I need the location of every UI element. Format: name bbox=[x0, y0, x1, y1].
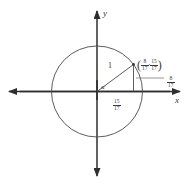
horizontal-leg-label: 1517 bbox=[113, 96, 121, 112]
diagram-canvas bbox=[0, 0, 189, 187]
point-y-denominator: 17 bbox=[150, 66, 158, 72]
unit-circle-figure: y x 1 α (817,1517) 817 1517 bbox=[0, 0, 189, 187]
terminal-point-marker bbox=[132, 63, 135, 66]
y-axis-label: y bbox=[103, 9, 107, 18]
point-x-fraction: 817 bbox=[141, 59, 149, 72]
angle-alpha-label: α bbox=[101, 84, 105, 91]
point-x-denominator: 17 bbox=[141, 66, 149, 72]
close-paren: ) bbox=[158, 59, 162, 71]
vertical-leg-denominator: 17 bbox=[167, 83, 175, 89]
vertical-leg-label: 817 bbox=[167, 73, 175, 89]
vertical-leg-fraction: 817 bbox=[167, 76, 175, 89]
x-axis-label: x bbox=[175, 96, 179, 105]
hypotenuse-label: 1 bbox=[108, 62, 112, 70]
horizontal-leg-denominator: 17 bbox=[113, 106, 121, 112]
horizontal-leg-fraction: 1517 bbox=[113, 99, 121, 112]
point-y-fraction: 1517 bbox=[150, 59, 158, 72]
terminal-point-coordinate-label: (817,1517) bbox=[137, 56, 162, 72]
